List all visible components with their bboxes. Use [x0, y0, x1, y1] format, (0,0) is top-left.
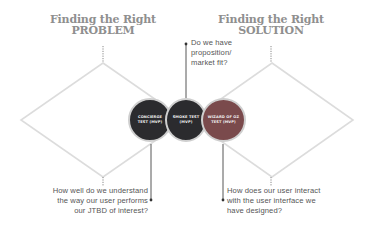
question-line: Do we have [191, 38, 251, 48]
problem-title: Finding the Right PROBLEM [48, 14, 158, 36]
diagram-canvas: Finding the Right PROBLEM Finding the Ri… [0, 0, 372, 232]
question-line: our JTBD of interest? [40, 206, 148, 216]
problem-title-line2: PROBLEM [48, 25, 158, 36]
question-line: the way our user performs [40, 196, 148, 206]
problem-connector-dot [150, 199, 153, 202]
solution-connector-dot [222, 199, 225, 202]
market-fit-question: Do we have proposition/ market fit? [191, 38, 251, 68]
problem-question: How well do we understand the way our us… [40, 186, 148, 216]
question-line: How well do we understand [40, 186, 148, 196]
solution-title-line2: SOLUTION [216, 25, 326, 36]
center-connector-dot [185, 43, 188, 46]
question-line: market fit? [191, 58, 251, 68]
wizard-of-oz-test-circle: WIZARD OF OZ TEST (MVP) [201, 98, 246, 142]
circle-label: SMOKE TEST (MVP) [167, 115, 205, 125]
question-line: have designed? [227, 206, 347, 216]
solution-question: How does our user interact with the user… [227, 186, 347, 216]
circle-label: CONCIERGE TEST (MVP) [130, 115, 170, 125]
question-line: with the user interface we [227, 196, 347, 206]
question-line: How does our user interact [227, 186, 347, 196]
question-line: proposition/ [191, 48, 251, 58]
solution-title: Finding the Right SOLUTION [216, 14, 326, 36]
circle-label: WIZARD OF OZ TEST (MVP) [203, 115, 244, 125]
